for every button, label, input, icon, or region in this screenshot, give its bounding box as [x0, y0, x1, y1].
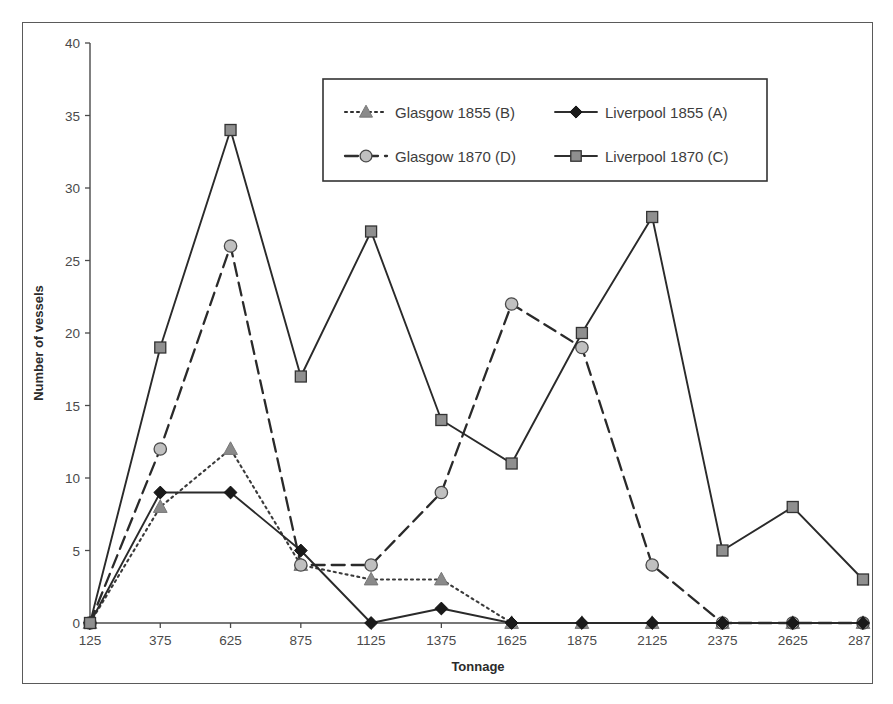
y-tick-label: 10	[65, 471, 80, 486]
square-marker	[576, 328, 587, 339]
series-line	[90, 246, 863, 623]
square-marker	[506, 458, 517, 469]
chart-legend: Glasgow 1855 (B)Liverpool 1855 (A)Glasgo…	[323, 79, 767, 181]
x-axis-title: Tonnage	[451, 659, 504, 674]
square-marker	[295, 371, 306, 382]
x-tick-label: 1375	[426, 633, 456, 648]
x-tick-label: 1125	[357, 633, 386, 648]
series-B	[83, 442, 870, 629]
x-tick-label: 2375	[707, 633, 737, 648]
series-line	[90, 130, 863, 623]
chart-frame: Number of vessels Tonnage 05101520253035…	[22, 22, 873, 684]
x-tick-label: 1875	[567, 633, 597, 648]
circle-marker	[576, 341, 588, 353]
square-marker	[225, 125, 236, 136]
circle-marker	[224, 240, 236, 252]
x-axis: 1253756258751125137516251875212523752625…	[79, 623, 871, 648]
circle-marker	[435, 486, 447, 498]
circle-marker	[360, 150, 372, 162]
diamond-marker	[154, 486, 167, 499]
y-tick-label: 40	[65, 36, 80, 51]
series-D	[84, 240, 869, 629]
circle-marker	[365, 559, 377, 571]
y-axis-title: Number of vessels	[31, 285, 46, 401]
square-marker	[858, 574, 869, 585]
y-tick-label: 0	[72, 616, 80, 631]
x-tick-label: 625	[219, 633, 242, 648]
x-tick-label: 2125	[637, 633, 667, 648]
triangle-marker	[224, 442, 238, 455]
legend-box	[323, 79, 767, 181]
square-marker	[85, 618, 96, 629]
y-tick-label: 25	[65, 254, 80, 269]
y-tick-label: 30	[65, 181, 80, 196]
y-tick-label: 15	[65, 399, 80, 414]
y-tick-label: 20	[65, 326, 80, 341]
x-tick-label: 125	[79, 633, 102, 648]
y-tick-label: 5	[72, 544, 80, 559]
circle-marker	[295, 559, 307, 571]
x-tick-label: 2625	[778, 633, 808, 648]
legend-label: Glasgow 1870 (D)	[395, 148, 516, 165]
legend-label: Liverpool 1855 (A)	[605, 104, 728, 121]
circle-marker	[505, 298, 517, 310]
data-series-group	[83, 125, 870, 630]
x-tick-label: 375	[149, 633, 172, 648]
y-axis: 0510152025303540	[65, 36, 90, 631]
square-marker	[366, 226, 377, 237]
legend-label: Glasgow 1855 (B)	[395, 104, 515, 121]
diamond-marker	[435, 602, 448, 615]
series-A	[84, 486, 870, 629]
square-marker	[436, 415, 447, 426]
square-marker	[717, 545, 728, 556]
square-marker	[647, 212, 658, 223]
x-tick-label: 2875	[848, 633, 871, 648]
line-chart: Number of vessels Tonnage 05101520253035…	[23, 23, 871, 682]
y-tick-label: 35	[65, 109, 80, 124]
square-marker	[571, 151, 581, 161]
series-C	[85, 125, 869, 629]
x-tick-label: 1625	[497, 633, 527, 648]
square-marker	[787, 502, 798, 513]
circle-marker	[646, 559, 658, 571]
series-line	[90, 493, 863, 624]
circle-marker	[154, 443, 166, 455]
legend-label: Liverpool 1870 (C)	[605, 148, 728, 165]
square-marker	[155, 342, 166, 353]
x-tick-label: 875	[290, 633, 313, 648]
